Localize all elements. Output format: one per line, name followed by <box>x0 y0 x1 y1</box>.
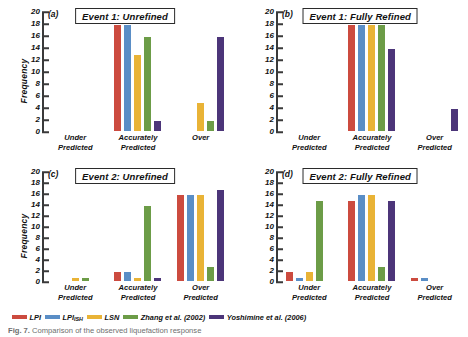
y-tick-label: 6 <box>14 245 40 253</box>
y-tick-label: 4 <box>248 256 274 264</box>
y-axis-ticks: 02468101214161820 <box>14 12 40 132</box>
plot-area <box>278 12 466 132</box>
bar <box>113 24 122 132</box>
y-tick-label: 8 <box>14 234 40 242</box>
legend-label: Yoshimine et al. (2006) <box>227 313 306 322</box>
bar-group <box>113 172 163 282</box>
x-axis-labels: UnderPredictedAccuratelyPredictedOver <box>44 132 232 160</box>
y-tick-label: 14 <box>14 201 40 209</box>
panel-b: 02468101214161820(b)Event 1: Fully Refin… <box>234 2 468 160</box>
y-tick-label: 20 <box>248 8 274 16</box>
y-tick-label: 10 <box>248 223 274 231</box>
bar <box>123 24 132 132</box>
bar-group <box>410 12 460 132</box>
y-tick-label: 10 <box>14 68 40 76</box>
y-tick-label: 0 <box>248 128 274 136</box>
legend-label: Zhang et al. (2002) <box>141 313 205 322</box>
x-axis-category-label: AccuratelyPredicted <box>341 282 404 310</box>
legend-item: LPIISH <box>45 313 83 322</box>
y-tick-label: 0 <box>14 278 40 286</box>
legend-label-subscript: ISH <box>74 316 83 322</box>
x-axis-category-label: OverPredicted <box>169 282 232 310</box>
y-tick-label: 18 <box>14 20 40 28</box>
y-tick-label: 6 <box>248 92 274 100</box>
figure-comparison-chart: Frequency02468101214161820(a)Event 1: Un… <box>0 0 468 337</box>
bar <box>367 194 376 282</box>
legend-item: LPI <box>12 313 41 322</box>
x-axis-category-label: AccuratelyPredicted <box>341 132 404 160</box>
bar <box>176 194 185 282</box>
y-tick-label: 14 <box>248 201 274 209</box>
bar <box>315 200 324 283</box>
y-tick-label: 6 <box>14 92 40 100</box>
bar <box>357 194 366 282</box>
y-tick-label: 12 <box>14 212 40 220</box>
y-tick-label: 8 <box>14 80 40 88</box>
plot-area <box>44 12 232 132</box>
bar-group <box>113 12 163 132</box>
bar-group <box>50 172 100 282</box>
y-axis-ticks: 02468101214161820 <box>14 172 40 282</box>
y-tick-label: 20 <box>14 8 40 16</box>
bar <box>285 271 294 282</box>
y-tick-label: 0 <box>248 278 274 286</box>
y-tick-label: 10 <box>14 223 40 231</box>
bar <box>133 54 142 132</box>
legend-swatch <box>12 315 27 319</box>
x-axis-category-label: OverPredicted <box>403 132 466 160</box>
y-axis-ticks: 02468101214161820 <box>248 172 274 282</box>
bar <box>123 271 132 282</box>
bar-groups <box>44 12 232 132</box>
x-axis-category-label: OverPredicted <box>403 282 466 310</box>
y-tick-label: 8 <box>248 234 274 242</box>
y-tick-label: 2 <box>248 267 274 275</box>
bar <box>377 24 386 132</box>
bar-group <box>284 172 334 282</box>
bar-groups <box>44 172 232 282</box>
y-tick-label: 10 <box>248 68 274 76</box>
y-tick-label: 18 <box>248 20 274 28</box>
caption-label: Fig. 7. <box>8 326 30 335</box>
bar-group <box>50 12 100 132</box>
bar <box>367 24 376 132</box>
y-tick-label: 2 <box>14 267 40 275</box>
bar <box>450 108 459 132</box>
bar <box>387 48 396 132</box>
bar-group <box>284 12 334 132</box>
bar-group <box>347 172 397 282</box>
legend-swatch <box>209 315 224 319</box>
y-tick-label: 4 <box>248 104 274 112</box>
panel-d: 02468101214161820(d)Event 2: Fully Refin… <box>234 162 468 310</box>
bar <box>143 36 152 132</box>
y-tick-label: 16 <box>248 32 274 40</box>
y-tick-label: 2 <box>14 116 40 124</box>
bar <box>377 266 386 283</box>
y-tick-label: 18 <box>248 179 274 187</box>
legend-item: Zhang et al. (2002) <box>123 313 205 322</box>
legend: LPILPIISHLSNZhang et al. (2002)Yoshimine… <box>12 311 312 323</box>
bar <box>206 266 215 283</box>
legend-item: LSN <box>87 313 119 322</box>
bar <box>216 189 225 283</box>
plot-area <box>44 172 232 282</box>
bar <box>113 271 122 282</box>
legend-label: LPI <box>30 313 42 322</box>
bar <box>387 200 396 283</box>
legend-label: LSN <box>105 313 120 322</box>
y-tick-label: 4 <box>14 256 40 264</box>
x-axis-labels: UnderPredictedAccuratelyPredictedOverPre… <box>278 282 466 310</box>
y-tick-label: 16 <box>248 190 274 198</box>
panel-c: Frequency02468101214161820(c)Event 2: Un… <box>0 162 234 310</box>
x-axis-category-label: UnderPredicted <box>44 282 107 310</box>
bar-groups <box>278 12 466 132</box>
bar <box>206 120 215 132</box>
y-tick-label: 14 <box>14 44 40 52</box>
y-tick-label: 8 <box>248 80 274 88</box>
y-tick-label: 2 <box>248 116 274 124</box>
bar <box>143 205 152 282</box>
legend-swatch <box>45 315 60 319</box>
x-axis-labels: UnderPredictedAccuratelyPredictedOverPre… <box>44 282 232 310</box>
y-tick-label: 16 <box>14 32 40 40</box>
legend-swatch <box>87 315 102 319</box>
x-axis-labels: UnderPredictedAccuratelyPredictedOverPre… <box>278 132 466 160</box>
